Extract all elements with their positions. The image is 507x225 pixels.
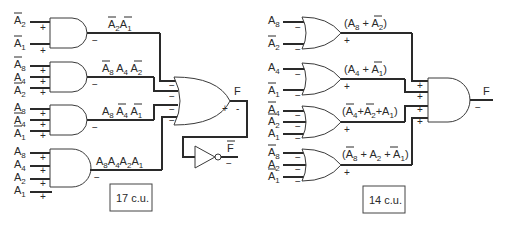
svg-text:−: − [92,122,98,133]
svg-text:−: − [295,90,301,101]
svg-text:−: − [295,69,301,80]
term-label-r1: (A8 + A2) [344,17,387,32]
svg-text:−: − [94,172,100,183]
and-gate-final [428,78,470,122]
svg-text:−: − [295,44,301,55]
svg-text:−: − [475,102,481,113]
or-gate-4: A8 A2 A1 − − − + (A8 + A2 + A1) [268,145,412,187]
svg-text:−: − [226,158,232,169]
svg-text:+: + [40,45,46,56]
right-circuit: A8 A2 − − + (A8 + A2) A4 A1 − − + (A4 + … [268,14,493,213]
svg-text:A2: A2 [268,37,280,52]
svg-text:+: + [40,65,46,76]
svg-text:−: − [295,22,301,33]
logic-diagram: A2 A1 + + − A2A1 A8 A4 A2 + + [0,0,507,225]
svg-text:−: − [295,110,301,121]
or-gate-2: A4 A1 − − + (A4 + A1) [268,61,405,101]
or-gate [174,77,230,125]
and-gate-1: A2 A1 + + − A2A1 [14,13,160,56]
svg-text:+: + [417,80,423,91]
svg-text:−: − [92,79,98,90]
and-gate-3: A8 A4 A1 + + + − A8 A4 A1 [14,101,154,142]
svg-text:−: − [169,80,175,91]
term-label-r4: (A8 + A2 + A1) [342,148,409,163]
svg-text:+: + [222,103,228,114]
svg-text:+: + [40,76,46,87]
cost-label-left: 17 c.u. [116,192,149,204]
term-label-r3: (A4+A2+A1) [342,105,398,120]
svg-text:−: − [92,35,98,46]
term-label-r2: (A4 + A1) [344,63,387,78]
svg-text:A1: A1 [14,127,26,142]
svg-text:+: + [40,191,46,202]
svg-text:A4: A4 [268,61,280,76]
svg-text:+: + [344,81,350,92]
svg-text:−: − [295,121,301,132]
svg-text:+: + [417,116,423,127]
svg-text:+: + [40,130,46,141]
inverter [195,146,215,168]
input-label-a1-bar: A1 [14,37,26,52]
svg-text:−: − [295,176,301,187]
term-label-1: A2A1 [108,18,132,33]
output-label-f: F [234,85,241,97]
svg-text:+: + [417,104,423,115]
svg-text:A1: A1 [14,184,26,199]
term-label-2: A8 A4 A2 [102,62,143,77]
and-gate-shape [50,18,87,48]
svg-text:A8: A8 [268,14,280,29]
term-label-3: A8 A4 A1 [102,105,143,120]
svg-text:−: − [295,164,301,175]
or-gate-3: A4 A2 A1 − − − + (A4+A2+A1) [268,102,405,144]
svg-text:−: − [169,104,175,115]
svg-text:-: - [236,103,239,114]
left-circuit: A2 A1 + + − A2A1 A8 A4 A2 + + [14,13,247,211]
term-label-4: A8A4A2A1 [96,155,144,170]
svg-text:+: + [417,91,423,102]
output-label-f-complement: F [227,142,234,154]
svg-text:A2: A2 [14,84,26,99]
svg-text:+: + [344,167,350,178]
svg-text:+: + [40,165,46,176]
svg-text:A1: A1 [268,84,280,99]
svg-text:−: − [169,91,175,102]
cost-label-right: 14 c.u. [369,194,402,206]
svg-text:−: − [295,152,301,163]
or-gate-1: A8 A2 − − + (A8 + A2) [268,14,412,55]
svg-text:+: + [40,178,46,189]
output-label-f-right: F [483,85,490,97]
inverter-bubble [215,154,221,160]
svg-text:+: + [344,35,350,46]
svg-text:+: + [40,108,46,119]
svg-text:+: + [40,119,46,130]
svg-text:+: + [40,87,46,98]
svg-text:−: − [295,133,301,144]
svg-text:+: + [344,124,350,135]
input-label-a2-bar: A2 [14,14,26,29]
svg-text:+: + [40,22,46,33]
and-gate-2: A8 A4 A2 + + + − A8 A4 A2 [14,57,154,99]
svg-text:+: + [40,152,46,163]
